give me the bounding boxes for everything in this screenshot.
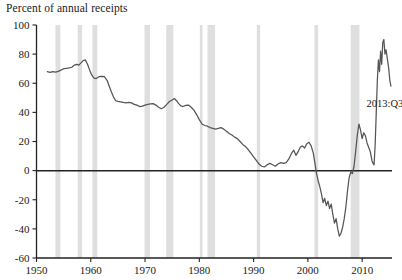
y-tick-label: -40 xyxy=(15,223,30,235)
recession-band xyxy=(351,25,360,258)
y-tick-label: 60 xyxy=(19,77,31,89)
recession-band xyxy=(166,25,173,258)
y-tick-label: -60 xyxy=(15,252,30,264)
recession-band xyxy=(207,25,215,258)
y-tick-label: -20 xyxy=(15,194,30,206)
recession-band xyxy=(92,25,97,258)
recession-band xyxy=(145,25,150,258)
y-tick-label: 80 xyxy=(19,48,31,60)
recession-band xyxy=(78,25,82,258)
recession-band xyxy=(314,25,318,258)
x-tick-label: 1960 xyxy=(80,264,103,276)
chart-plot-area: 100806040200-20-40-601950196019701980199… xyxy=(0,0,402,280)
y-tick-label: 100 xyxy=(13,19,30,31)
y-tick-label: 40 xyxy=(19,106,31,118)
chart-container: Percent of annual receipts 100806040200-… xyxy=(0,0,402,280)
data-annotation-label: 2013:Q3 xyxy=(366,98,402,109)
data-series-line-0 xyxy=(47,40,391,237)
y-tick-label: 0 xyxy=(24,164,30,176)
x-tick-label: 1950 xyxy=(26,264,49,276)
x-tick-label: 2010 xyxy=(351,264,374,276)
x-tick-label: 1980 xyxy=(188,264,211,276)
recession-band xyxy=(200,25,203,258)
x-tick-label: 1970 xyxy=(134,264,157,276)
x-tick-label: 1990 xyxy=(243,264,266,276)
recession-band xyxy=(257,25,260,258)
y-tick-label: 20 xyxy=(19,135,31,147)
x-tick-label: 2000 xyxy=(297,264,320,276)
recession-band xyxy=(55,25,60,258)
